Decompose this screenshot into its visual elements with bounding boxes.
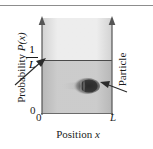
x-tick-box-width: L: [110, 112, 116, 123]
y-tick-one-over-L: 1 L: [25, 44, 39, 70]
particle-label: Particle: [117, 43, 128, 97]
x-tick-origin: 0: [36, 112, 42, 123]
x-axis-label-text: Position: [56, 128, 95, 140]
y-tick-numerator: 1: [25, 44, 39, 56]
y-tick-zero: 0: [30, 105, 36, 116]
particle-in-a-box-figure: Probability P(x) 1 L 0 0 L Position x Pa…: [0, 0, 153, 149]
probability-line: [42, 60, 112, 61]
x-axis-label-symbol: x: [95, 128, 100, 140]
x-axis-line: [41, 113, 113, 114]
y-tick-denominator: L: [25, 59, 39, 71]
x-axis-label: Position x: [40, 129, 116, 140]
top-divider-rule: [0, 5, 153, 6]
